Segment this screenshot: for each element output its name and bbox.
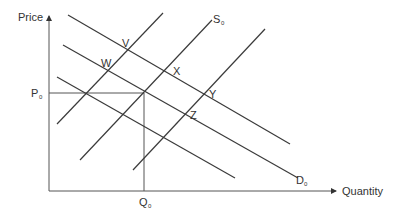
p0-label: P bbox=[31, 87, 38, 99]
d0-subscript: 0 bbox=[304, 181, 308, 187]
price-axis-label: Price bbox=[18, 11, 43, 23]
d0-label: D bbox=[296, 174, 304, 186]
point-y-label: Y bbox=[209, 88, 217, 100]
point-v-label: V bbox=[122, 37, 130, 49]
demand-curve-high bbox=[68, 15, 290, 144]
s0-subscript: 0 bbox=[221, 20, 225, 26]
q0-label: Q bbox=[139, 196, 148, 208]
s0-label: S bbox=[213, 13, 220, 25]
point-z-label: Z bbox=[190, 109, 197, 121]
p0-subscript: 0 bbox=[39, 94, 43, 100]
demand-curve-d0 bbox=[63, 45, 298, 178]
point-w-label: W bbox=[101, 57, 112, 69]
supply-curve-s0 bbox=[80, 20, 212, 160]
supply-curve-right bbox=[133, 29, 265, 170]
supply-demand-diagram: Price Quantity P 0 Q 0 S 0 D 0 V W X Y Z bbox=[0, 0, 405, 216]
point-x-label: X bbox=[173, 65, 181, 77]
q0-subscript: 0 bbox=[148, 203, 152, 209]
quantity-axis-label: Quantity bbox=[342, 185, 383, 197]
